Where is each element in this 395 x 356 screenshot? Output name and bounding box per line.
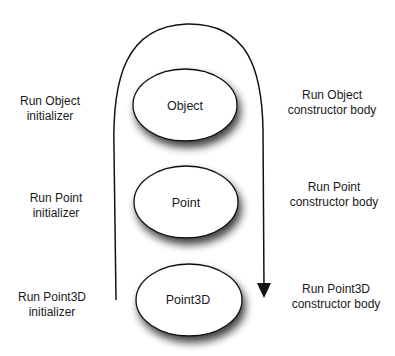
left-label-object-line1: Run Object xyxy=(18,94,82,109)
right-label-point3d: Run Point3D constructor body xyxy=(286,282,386,312)
left-label-object-line2: initializer xyxy=(18,109,82,124)
right-label-point-line1: Run Point xyxy=(284,180,384,195)
node-object-label: Object xyxy=(167,99,203,113)
right-label-object: Run Object constructor body xyxy=(282,88,382,118)
right-label-point: Run Point constructor body xyxy=(284,180,384,210)
right-label-object-line1: Run Object xyxy=(282,88,382,103)
left-label-point3d-line2: initializer xyxy=(18,305,86,320)
right-label-point3d-line1: Run Point3D xyxy=(286,282,386,297)
left-label-object: Run Object initializer xyxy=(18,94,82,124)
flow-loop-arrow xyxy=(114,24,264,300)
right-label-object-line2: constructor body xyxy=(282,103,382,118)
left-label-point3d: Run Point3D initializer xyxy=(18,290,86,320)
node-point-label: Point xyxy=(172,196,201,210)
node-point3d-label: Point3D xyxy=(166,293,210,307)
right-label-point-line2: constructor body xyxy=(284,195,384,210)
left-label-point-line2: initializer xyxy=(24,206,88,221)
arrowhead-icon xyxy=(257,283,271,298)
left-label-point: Run Point initializer xyxy=(24,191,88,221)
left-label-point3d-line1: Run Point3D xyxy=(18,290,86,305)
left-label-point-line1: Run Point xyxy=(24,191,88,206)
right-label-point3d-line2: constructor body xyxy=(286,297,386,312)
